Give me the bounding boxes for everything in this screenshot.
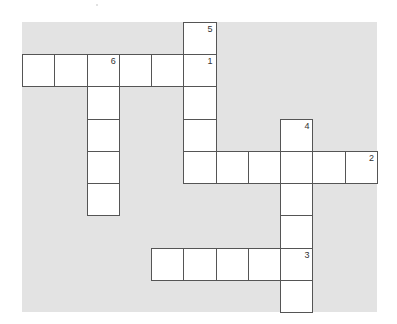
clue-number: 2: [369, 153, 374, 163]
crossword-cell[interactable]: [22, 54, 55, 87]
crossword-cell[interactable]: [280, 215, 313, 248]
crossword-cell[interactable]: [119, 54, 152, 87]
crossword-cell[interactable]: [183, 248, 216, 281]
crossword-cell[interactable]: 5: [183, 22, 216, 55]
crossword-cell[interactable]: 4: [280, 119, 313, 152]
clue-number: 3: [304, 250, 309, 260]
crossword-board: 561423: [22, 22, 377, 312]
crossword-cell[interactable]: [248, 248, 281, 281]
clue-number: 6: [111, 56, 116, 66]
clue-number: 4: [304, 121, 309, 131]
crossword-cell[interactable]: [87, 151, 120, 184]
crossword-cell[interactable]: [280, 183, 313, 216]
crossword-cell[interactable]: [87, 119, 120, 152]
crossword-cell[interactable]: [216, 248, 249, 281]
crossword-cell[interactable]: [151, 248, 184, 281]
crossword-cell[interactable]: [183, 86, 216, 119]
crossword-cell[interactable]: [280, 151, 313, 184]
crossword-cell[interactable]: [183, 151, 216, 184]
crossword-cell[interactable]: 1: [183, 54, 216, 87]
crossword-cell[interactable]: [280, 280, 313, 313]
crossword-cell[interactable]: [151, 54, 184, 87]
crossword-cell[interactable]: 2: [345, 151, 378, 184]
crossword-cell[interactable]: [248, 151, 281, 184]
crossword-cell[interactable]: [312, 151, 345, 184]
decorative-dot: [96, 4, 98, 6]
crossword-cell[interactable]: [183, 119, 216, 152]
crossword-cell[interactable]: [87, 86, 120, 119]
crossword-cell[interactable]: [216, 151, 249, 184]
crossword-cell[interactable]: [54, 54, 87, 87]
clue-number: 5: [208, 24, 213, 34]
crossword-cell[interactable]: 3: [280, 248, 313, 281]
crossword-cell[interactable]: [87, 183, 120, 216]
clue-number: 1: [208, 56, 213, 66]
crossword-cell[interactable]: 6: [87, 54, 120, 87]
